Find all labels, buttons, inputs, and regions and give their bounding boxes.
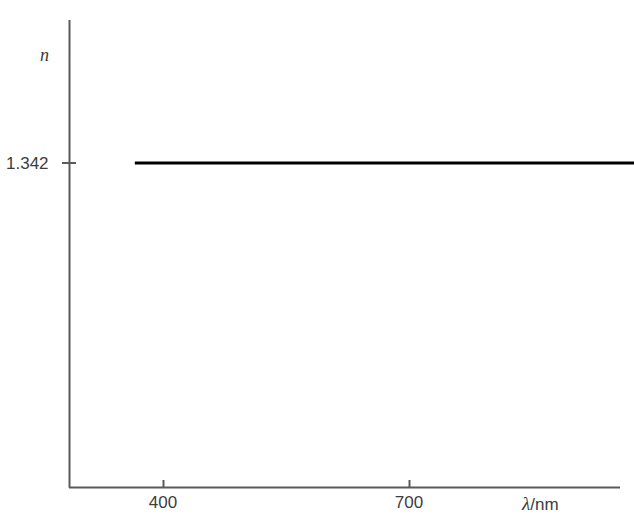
x-axis-unit: /nm — [530, 495, 558, 514]
x-axis-title: λ/nm — [522, 494, 559, 513]
y-axis-title: n — [40, 46, 49, 64]
lambda-symbol: λ — [522, 493, 530, 514]
refractive-index-chart: n 1.342 400 700 λ/nm — [0, 0, 634, 527]
x-tick-label-700: 700 — [395, 494, 423, 511]
plot-area — [0, 0, 634, 527]
x-tick-label-400: 400 — [149, 494, 177, 511]
y-tick-label-1342: 1.342 — [6, 155, 49, 172]
